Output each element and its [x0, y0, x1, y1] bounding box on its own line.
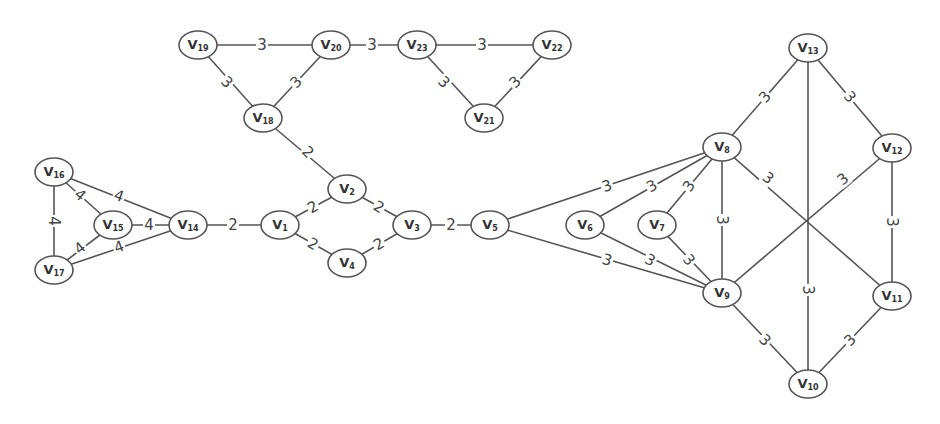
node-v1: V1 [261, 211, 299, 239]
node-v20: V20 [312, 31, 350, 59]
edge-weight-label: 2 [303, 196, 322, 218]
weight-label-layer: 33333332444444222222333333333333333 [45, 36, 901, 351]
node-layer: V1V2V3V4V5V6V7V8V9V10V11V12V13V14V15V16V… [35, 31, 911, 398]
node-v23: V23 [398, 31, 436, 59]
node-v7: V7 [638, 211, 676, 239]
weight-text: 3 [367, 36, 377, 54]
node-v3: V3 [393, 211, 431, 239]
edge-weight-label: 3 [599, 250, 616, 271]
edge-weight-label: 3 [476, 36, 488, 54]
node-v13: V13 [789, 34, 827, 62]
edge-weight-label: 2 [297, 141, 318, 162]
node-v8: V8 [703, 133, 741, 161]
graph-canvas: 33333332444444222222333333333333333 V1V2… [0, 0, 940, 424]
edge-weight-label: 4 [143, 216, 155, 234]
node-v2: V2 [328, 175, 366, 203]
edge-weight-label: 3 [366, 36, 378, 54]
edge-weight-label: 3 [678, 176, 700, 196]
weight-text: 3 [883, 217, 901, 227]
node-v10: V10 [789, 370, 827, 398]
edge-weight-label: 2 [445, 216, 457, 234]
node-v6: V6 [566, 211, 604, 239]
edge-weight-label: 2 [303, 233, 322, 255]
edge-weight-label: 3 [758, 167, 779, 189]
edge-weight-label: 3 [799, 284, 817, 296]
edge-weight-label: 3 [883, 216, 901, 228]
edge-weight-label: 3 [433, 71, 454, 92]
weight-text: 3 [799, 285, 817, 295]
weight-text: 2 [228, 216, 238, 234]
weight-text: 3 [257, 36, 267, 54]
node-v12: V12 [873, 134, 911, 162]
weight-text: 3 [713, 215, 731, 225]
edge-weight-label: 3 [640, 249, 659, 271]
edge-weight-label: 3 [504, 71, 525, 92]
edge-weight-label: 3 [599, 176, 616, 197]
edge-weight-label: 3 [256, 36, 268, 54]
node-v14: V14 [169, 211, 207, 239]
node-v5: V5 [471, 211, 509, 239]
edge-weight-label: 4 [45, 215, 63, 227]
node-v22: V22 [533, 31, 571, 59]
node-v16: V16 [35, 158, 73, 186]
node-v17: V17 [35, 256, 73, 284]
weight-text: 3 [477, 36, 487, 54]
node-v11: V11 [873, 282, 911, 310]
edge-weight-label: 3 [713, 214, 731, 226]
edge-weight-label: 3 [833, 168, 854, 190]
edge-weight-label: 2 [369, 196, 388, 218]
node-v18: V18 [244, 104, 282, 132]
edge-weight-label: 3 [642, 175, 661, 197]
node-v15: V15 [94, 211, 132, 239]
node-v9: V9 [703, 279, 741, 307]
edge-weight-label: 3 [216, 71, 237, 92]
node-v4: V4 [328, 249, 366, 277]
node-v21: V21 [465, 104, 503, 132]
node-v19: V19 [179, 31, 217, 59]
weight-text: 4 [45, 216, 63, 226]
weight-text: 2 [446, 216, 456, 234]
weight-text: 4 [144, 216, 154, 234]
edge-weight-label: 2 [369, 233, 388, 255]
edge-weight-label: 2 [227, 216, 239, 234]
edge-weight-label: 4 [110, 185, 127, 206]
